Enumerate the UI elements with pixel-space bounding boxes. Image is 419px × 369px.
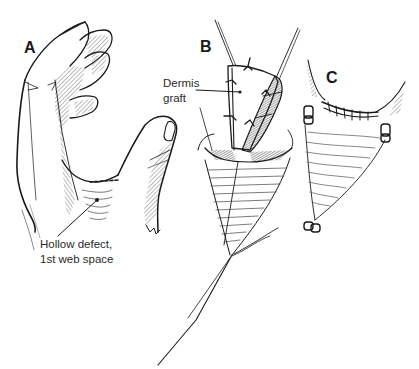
callout-dermis-graft: Dermis graft: [163, 76, 199, 106]
panel-label-a: A: [24, 40, 36, 56]
panel-label-b: B: [200, 39, 212, 55]
callout-hollow-defect: Hollow defect, 1st web space: [40, 237, 114, 267]
callout-dermis-graft-line1: Dermis: [163, 76, 199, 91]
panel-c-closure: [304, 60, 405, 232]
panel-b-graft-insertion: [158, 20, 300, 365]
surgical-illustration: A B C Dermis graft Hollow defect, 1st we…: [0, 0, 419, 369]
callout-dermis-graft-line2: graft: [163, 91, 199, 106]
panel-label-c: C: [326, 70, 338, 86]
panel-a-hand: [17, 22, 177, 250]
callout-hollow-defect-line1: Hollow defect,: [40, 237, 114, 252]
callout-hollow-defect-line2: 1st web space: [40, 252, 114, 267]
illustration-drawing: [0, 0, 419, 369]
